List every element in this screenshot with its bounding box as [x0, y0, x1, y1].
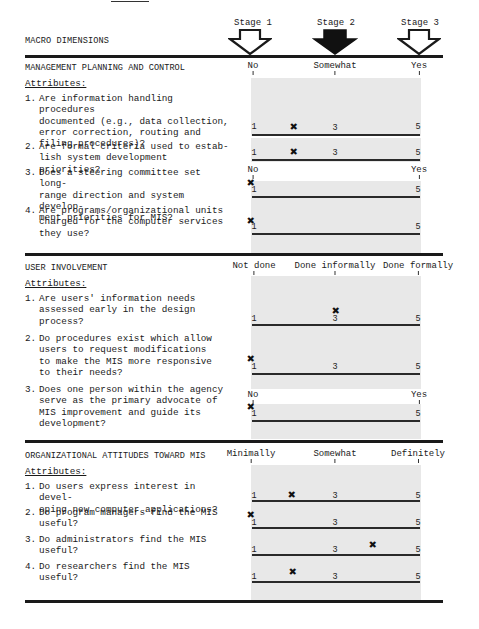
stage-1-label: Stage 1: [223, 18, 283, 28]
rating-line: [252, 373, 420, 375]
macro-dimensions-header: MACRO DIMENSIONS: [25, 36, 109, 46]
rating-line: [252, 500, 420, 502]
rating-mark-x-icon[interactable]: ✖: [289, 568, 297, 578]
attributes-label: Attributes:: [25, 78, 86, 89]
question-2: 2.Do program managers find the MIS usefu…: [25, 507, 230, 530]
scale-5: 5: [415, 362, 420, 372]
question-1: 1.Are users' information needs assessed …: [25, 293, 230, 327]
scale-label-no: No: [248, 61, 259, 75]
section-divider: [25, 253, 443, 256]
rating-mark-x-icon[interactable]: ✖: [290, 123, 298, 133]
rating-line: [252, 581, 420, 583]
question-3: 3.Does one person within the agency serv…: [25, 384, 230, 429]
scale-label-yes: Yes: [411, 61, 427, 75]
scale-3: 3: [332, 314, 337, 324]
question-4: 4.Are programs/organizational units char…: [25, 205, 230, 239]
scale-label-yes: Yes: [411, 390, 427, 404]
question-3: 3.Do administrators find the MIS useful?: [25, 534, 230, 557]
section-1-shade-c: [251, 181, 421, 253]
scale-5: 5: [415, 409, 420, 419]
scale-1: 1: [251, 122, 256, 132]
scale-1: 1: [251, 185, 256, 195]
scale-label-not-done: Not done: [232, 261, 275, 275]
scale-3: 3: [332, 362, 337, 372]
section-title: ORGANIZATIONAL ATTITUDES TOWARD MIS: [25, 451, 206, 461]
rating-line: [252, 324, 420, 326]
scale-label-somewhat: Somewhat: [313, 449, 356, 463]
stage-2-arrow-icon: [312, 29, 358, 55]
rating-line: [252, 527, 420, 529]
scale-label-somewhat: Somewhat: [313, 61, 356, 75]
rating-mark-x-icon[interactable]: ✖: [369, 541, 377, 551]
rating-mark-x-icon[interactable]: ✖: [290, 148, 298, 158]
scale-1: 1: [251, 362, 256, 372]
scale-1: 1: [251, 148, 256, 158]
scale-5: 5: [415, 185, 420, 195]
cropped-heading-underline: [111, 1, 149, 2]
section-divider: [25, 440, 443, 443]
scale-label-done-formally: Done formally: [383, 261, 453, 275]
scale-label-yes: Yes: [411, 165, 427, 179]
stage-3-arrow-icon: [397, 29, 441, 55]
section-2-shade-c: [251, 422, 421, 439]
section-title: USER INVOLVEMENT: [25, 263, 108, 273]
rating-line: [252, 159, 420, 161]
section-title: MANAGEMENT PLANNING AND CONTROL: [25, 63, 185, 73]
scale-5: 5: [415, 314, 420, 324]
scale-1: 1: [251, 409, 256, 419]
scale-5: 5: [415, 148, 420, 158]
question-2: 2.Do procedures exist which allow users …: [25, 333, 230, 378]
rating-line: [252, 554, 420, 556]
rating-line: [252, 196, 420, 198]
rating-line: [252, 134, 420, 136]
header-divider: [25, 55, 443, 58]
scale-label-definitely: Definitely: [391, 449, 445, 463]
stage-2-label: Stage 2: [306, 18, 366, 28]
question-4: 4.Do researchers find the MIS useful?: [25, 561, 230, 584]
attributes-label: Attributes:: [25, 466, 86, 477]
stage-3-label: Stage 3: [390, 18, 450, 28]
bottom-divider: [25, 600, 443, 603]
scale-label-minimally: Minimally: [227, 449, 276, 463]
scale-label-done-informally: Done informally: [294, 261, 375, 275]
scale-5: 5: [415, 122, 420, 132]
rating-line: [252, 233, 420, 235]
scale-3: 3: [332, 148, 337, 158]
stage-1-arrow-icon: [228, 29, 272, 55]
scale-1: 1: [251, 314, 256, 324]
scale-3: 3: [332, 123, 337, 133]
scale-5: 5: [415, 222, 420, 232]
attributes-label: Attributes:: [25, 278, 86, 289]
scale-1: 1: [251, 222, 256, 232]
